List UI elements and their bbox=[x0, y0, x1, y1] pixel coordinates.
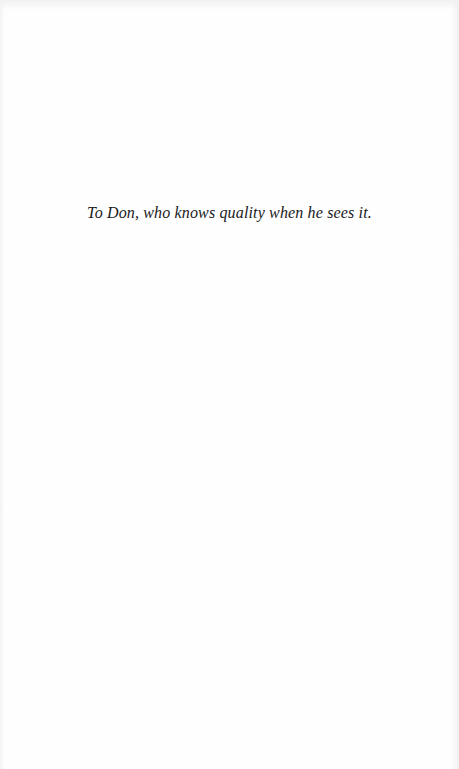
book-page: To Don, who knows quality when he sees i… bbox=[0, 0, 459, 769]
page-edge-shadow-top bbox=[0, 0, 459, 10]
page-edge-shadow-right bbox=[451, 0, 459, 769]
page-edge-shadow-left bbox=[0, 0, 5, 769]
dedication-text: To Don, who knows quality when he sees i… bbox=[0, 203, 459, 223]
